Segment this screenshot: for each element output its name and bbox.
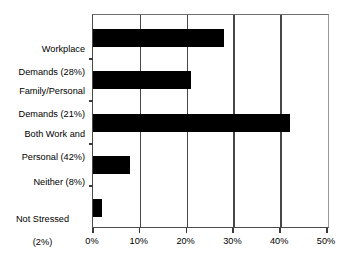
x-axis-ticks [92,228,329,234]
x-axis-tick [232,228,234,233]
bar-both-work-and-personal [93,114,290,132]
bar-not-stressed [93,199,102,217]
category-label-neither: Neither (8%) [0,165,85,188]
category-label-line: Family/Personal [19,86,85,96]
x-axis-tick [139,228,141,233]
category-label-line: (2%) [33,237,52,247]
plot-inner [93,15,328,227]
y-axis-tick [89,58,93,60]
category-axis-labels: Workplace Demands (28%) Family/Personal … [0,14,88,228]
x-axis-tick [92,228,94,233]
y-axis-tick [89,100,93,102]
x-axis-label-20: 20% [176,235,194,247]
y-axis-tick [89,143,93,145]
category-label-both-work-and-personal: Both Work and Personal (42%) [0,117,85,163]
x-axis-tick [186,228,188,233]
x-axis-label-30: 30% [223,235,241,247]
x-axis-label-10: 10% [130,235,148,247]
category-label-not-stressed: Not Stressed (2%) [0,202,85,248]
bar-family-personal-demands [93,71,191,89]
category-label-line: Not Stressed [16,214,69,224]
category-label-workplace-demands: Workplace Demands (28%) [0,32,85,78]
bar-chart: Workplace Demands (28%) Family/Personal … [0,0,353,264]
x-axis-label-50: 50% [317,235,335,247]
category-label-line: Workplace [42,44,85,54]
x-axis-label-40: 40% [270,235,288,247]
category-label-family-personal-demands: Family/Personal Demands (21%) [0,74,85,120]
x-axis-tick [326,228,328,233]
category-label-line: Neither (8%) [33,177,85,187]
category-label-line: Both Work and [24,129,85,139]
x-axis-label-0: 0% [85,235,98,247]
x-axis-labels: 0% 10% 20% 30% 40% 50% [92,235,329,251]
y-axis-tick [89,185,93,187]
bar-workplace-demands [93,29,224,47]
bar-neither [93,156,130,174]
x-axis-tick [279,228,281,233]
plot-area [92,14,329,228]
category-label-line: Personal (42%) [22,152,85,162]
